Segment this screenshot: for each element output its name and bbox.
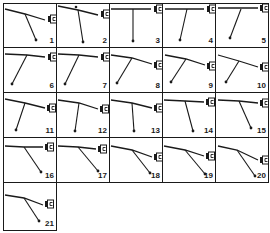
bob-dot <box>229 37 232 40</box>
panel-number-label: 11 <box>40 127 54 135</box>
pendulum-arm <box>12 55 27 84</box>
pendulum-arm <box>185 101 193 131</box>
plug-icon <box>98 145 107 153</box>
bob-dot <box>116 82 119 85</box>
pendulum-arm <box>65 55 79 84</box>
pendulum-arm <box>171 59 186 82</box>
plug-icon <box>260 63 269 71</box>
bob-dot <box>179 39 182 42</box>
panel-number-label: 18 <box>146 172 160 180</box>
plug-icon <box>260 4 269 12</box>
panel-number-label: 1 <box>40 37 54 45</box>
cable-line <box>111 146 152 157</box>
panel-5 <box>218 4 269 39</box>
cable-line <box>111 100 152 108</box>
bob-dot <box>64 83 67 86</box>
diagram-canvas <box>0 0 270 233</box>
pendulum-arm <box>226 61 239 82</box>
panel-number-label: 14 <box>199 127 213 135</box>
plug-icon <box>48 53 57 61</box>
panel-number-label: 5 <box>252 37 266 45</box>
panel-8 <box>111 55 163 84</box>
panel-number-label: 13 <box>146 127 160 135</box>
pendulum-arm <box>78 147 98 171</box>
panel-number-label: 7 <box>93 82 107 90</box>
panel-number-label: 15 <box>252 127 266 135</box>
marker-dot <box>75 6 78 9</box>
pendulum-arm <box>239 101 251 128</box>
cable-line <box>218 55 258 67</box>
panel-number-label: 2 <box>93 37 107 45</box>
pendulum-arm <box>230 9 241 38</box>
panel-number-label: 19 <box>199 172 213 180</box>
pendulum-arm <box>25 14 36 40</box>
panel-number-label: 10 <box>252 82 266 90</box>
panel-number-label: 4 <box>199 37 213 45</box>
panel-number-label: 16 <box>40 172 54 180</box>
bob-dot <box>133 130 136 133</box>
plug-icon <box>207 5 216 13</box>
bob-dot <box>15 129 18 132</box>
bob-dot <box>132 40 135 43</box>
plug-icon <box>100 105 109 113</box>
plug-icon <box>154 5 163 13</box>
panel-number-label: 12 <box>93 127 107 135</box>
pendulum-arm <box>132 103 134 131</box>
panel-6 <box>5 53 57 85</box>
plug-icon <box>260 99 269 107</box>
panel-9 <box>165 55 216 83</box>
panel-number-label: 17 <box>93 172 107 180</box>
bob-dot <box>35 39 38 42</box>
plug-icon <box>206 98 215 106</box>
plug-icon <box>45 143 54 151</box>
panel-number-label: 3 <box>146 37 160 45</box>
plug-icon <box>154 104 163 112</box>
bob-dot <box>82 41 85 44</box>
plug-icon <box>207 62 216 70</box>
panel-4 <box>165 5 216 41</box>
cable-line <box>218 146 258 160</box>
cable-line <box>164 100 204 102</box>
panel-number-label: 9 <box>199 82 213 90</box>
cable-line <box>5 146 43 147</box>
plug-icon <box>260 156 269 164</box>
plug-icon <box>154 61 163 69</box>
bob-dot <box>225 81 228 84</box>
plug-icon <box>101 53 110 61</box>
cable-line <box>164 146 204 156</box>
cable-line <box>218 100 258 103</box>
plug-icon <box>101 10 110 18</box>
panel-17 <box>58 145 107 172</box>
pendulum-arm <box>180 9 187 40</box>
cable-line <box>5 195 43 205</box>
pendulum-arm <box>75 103 79 131</box>
pendulum-arm <box>24 147 41 172</box>
pendulum-arm <box>16 103 25 130</box>
panel-number-label: 6 <box>40 82 54 90</box>
bob-dot <box>11 83 14 86</box>
cable-line <box>58 146 96 149</box>
plug-icon <box>48 15 57 23</box>
plug-icon <box>47 104 56 112</box>
panel-16 <box>5 143 54 173</box>
bob-dot <box>170 81 173 84</box>
plug-icon <box>206 152 215 160</box>
panel-15 <box>218 99 269 129</box>
bob-dot <box>192 130 195 133</box>
pendulum-arm <box>78 10 83 42</box>
panel-number-label: 20 <box>252 172 266 180</box>
bob-dot <box>74 130 77 133</box>
panel-number-label: 21 <box>40 220 54 228</box>
panel-10 <box>218 55 269 83</box>
panel-number-label: 8 <box>146 82 160 90</box>
cable-line <box>5 54 45 57</box>
plug-icon <box>154 153 163 161</box>
panel-7 <box>58 53 110 85</box>
plug-icon <box>45 200 54 208</box>
pendulum-arm <box>117 58 132 83</box>
